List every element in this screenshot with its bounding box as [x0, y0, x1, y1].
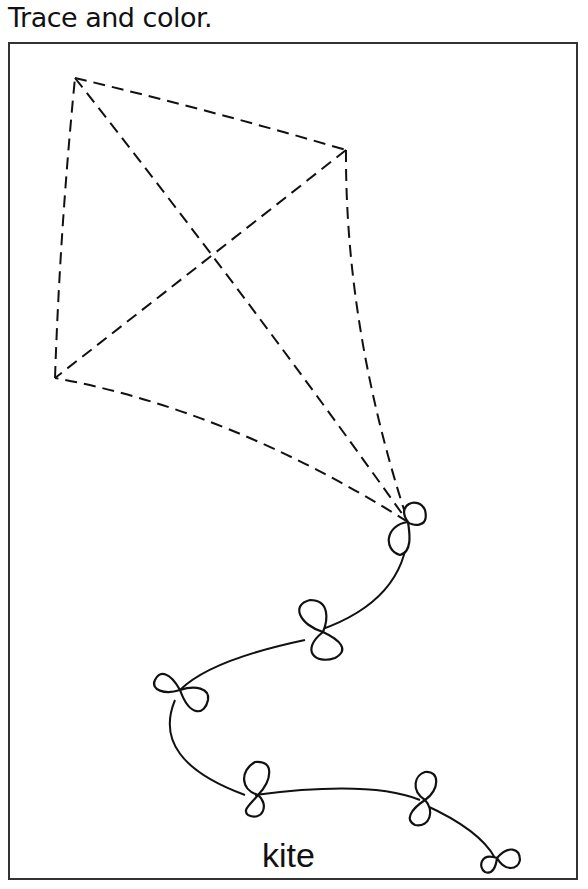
kite-dashed-outline	[55, 78, 408, 522]
bow-6	[481, 850, 520, 873]
bow-3	[154, 674, 208, 711]
word-label: kite	[262, 836, 315, 875]
bow-2	[299, 600, 342, 660]
kite-illustration	[0, 0, 588, 889]
bow-1	[389, 503, 426, 555]
bow-4	[244, 762, 269, 817]
tail-bows	[154, 503, 520, 873]
kite-tail-string	[170, 530, 495, 858]
